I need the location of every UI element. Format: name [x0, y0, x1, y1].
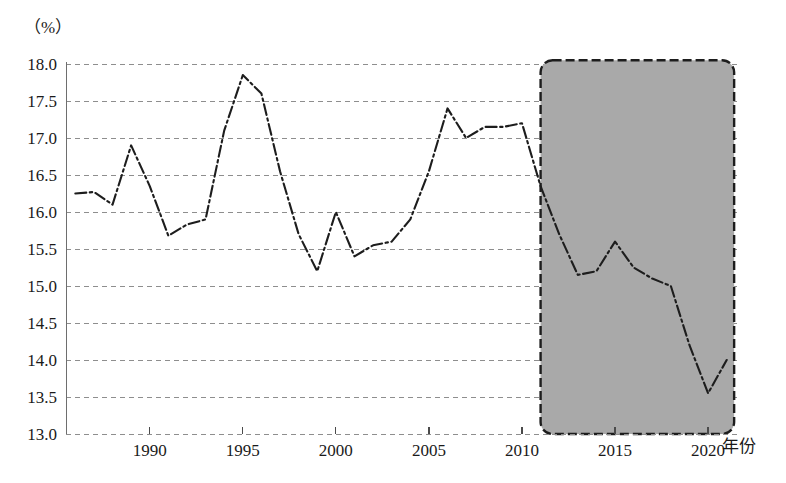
- y-tick-label-5: 15.5: [27, 240, 57, 259]
- x-tick-label-5: 2015: [598, 441, 632, 460]
- x-axis-title: 年份: [722, 437, 756, 456]
- x-tick-label-0: 1990: [133, 441, 167, 460]
- x-axis-tick-labels: 1990199520002005201020152020: [133, 441, 725, 460]
- x-tick-label-2: 2000: [319, 441, 353, 460]
- y-tick-label-4: 16.0: [27, 203, 57, 222]
- x-tick-label-6: 2020: [691, 441, 725, 460]
- x-tick-label-3: 2005: [412, 441, 446, 460]
- y-tick-label-6: 15.0: [27, 277, 57, 296]
- y-tick-label-3: 16.5: [27, 166, 57, 185]
- y-tick-label-7: 14.5: [27, 314, 57, 333]
- y-tick-label-9: 13.5: [27, 388, 57, 407]
- x-tick-label-1: 1995: [226, 441, 260, 460]
- y-tick-label-2: 17.0: [27, 129, 57, 148]
- y-tick-label-0: 18.0: [27, 55, 57, 74]
- y-axis-unit-label: （%）: [24, 18, 72, 37]
- chart-container: 18.017.517.016.516.015.515.014.514.013.5…: [0, 0, 786, 483]
- highlight-region-group: [541, 60, 735, 434]
- y-tick-label-10: 13.0: [27, 425, 57, 444]
- y-tick-label-8: 14.0: [27, 351, 57, 370]
- highlight-region: [541, 60, 735, 434]
- x-tick-label-4: 2010: [505, 441, 539, 460]
- line-chart: 18.017.517.016.516.015.515.014.514.013.5…: [0, 0, 786, 483]
- y-tick-label-1: 17.5: [27, 92, 57, 111]
- y-axis-tick-labels: 18.017.517.016.516.015.515.014.514.013.5…: [27, 55, 57, 444]
